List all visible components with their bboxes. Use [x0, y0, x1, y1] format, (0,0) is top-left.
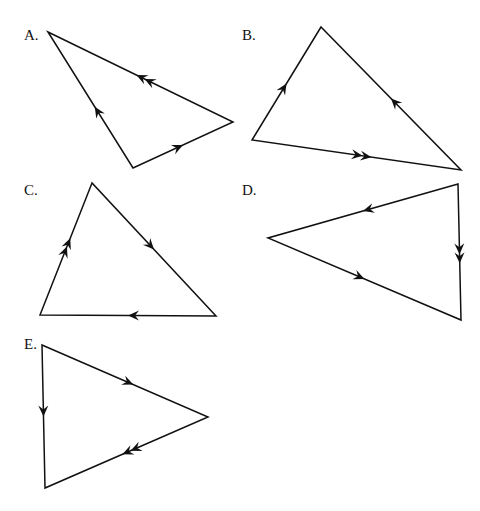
triangle-outline: [252, 27, 461, 170]
vector-triangles-figure: A. B. C. D. E.: [0, 0, 480, 511]
triangle-b: B.: [242, 27, 461, 170]
arrowhead-icon: [95, 107, 105, 119]
triangle-label: D.: [242, 182, 257, 198]
triangle-d: D.: [242, 182, 465, 320]
arrowhead-icon: [277, 84, 287, 96]
triangle-outline: [48, 32, 233, 168]
triangle-a: A.: [24, 27, 233, 168]
triangle-outline: [268, 184, 461, 320]
triangle-outline: [42, 345, 208, 488]
triangle-label: E.: [24, 336, 37, 352]
triangle-label: A.: [24, 27, 39, 43]
triangle-e: E.: [24, 336, 208, 488]
triangle-c: C.: [24, 182, 216, 321]
triangle-label: C.: [24, 182, 38, 198]
triangle-label: B.: [242, 27, 256, 43]
